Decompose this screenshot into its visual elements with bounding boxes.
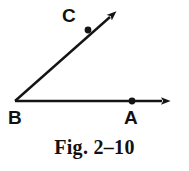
point-c-dot [85,27,92,34]
point-label-a: A [124,108,138,127]
point-a-dot [129,98,136,105]
figure-container: C B A Fig. 2–10 [0,0,189,171]
figure-caption: Fig. 2–10 [0,136,189,158]
point-label-b: B [8,108,22,127]
point-label-c: C [62,6,76,25]
ray-bc [15,17,110,101]
